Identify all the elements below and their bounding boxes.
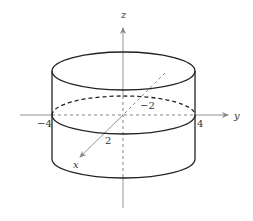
middle-ellipse-front (52, 115, 195, 134)
x-tick-pos2: 2 (105, 135, 111, 146)
y-tick-pos4: 4 (197, 118, 203, 129)
x-axis-label: x (73, 159, 79, 170)
top-ellipse (52, 52, 195, 90)
cylinder-diagram: z y x −4 4 2 −2 (0, 0, 253, 221)
x-tick-neg2: −2 (140, 100, 155, 111)
y-axis-label: y (233, 110, 240, 121)
middle-ellipse-back (52, 96, 195, 115)
y-tick-neg4: −4 (37, 118, 52, 129)
z-axis-label: z (120, 9, 127, 20)
x-axis-front (80, 115, 123, 157)
